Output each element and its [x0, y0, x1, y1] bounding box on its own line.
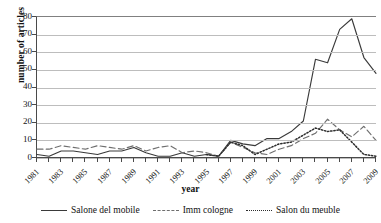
plot-area: [36, 16, 376, 158]
gridline: [37, 70, 376, 71]
legend-label: Salon du meuble: [276, 205, 340, 215]
y-tick-mark: [32, 139, 36, 140]
y-axis-tick-labels: 01020304050607080: [14, 10, 32, 158]
gridline: [37, 52, 376, 53]
gridline: [37, 105, 376, 106]
gridline: [37, 140, 376, 141]
y-tick-label: 60: [14, 47, 32, 56]
y-tick-label: 80: [14, 12, 32, 21]
y-tick-mark: [32, 157, 36, 158]
y-tick-label: 70: [14, 29, 32, 38]
legend-item[interactable]: Salone del mobile: [41, 205, 140, 215]
y-tick-mark: [32, 87, 36, 88]
y-tick-mark: [32, 16, 36, 17]
legend-item[interactable]: Imm cologne: [153, 205, 233, 215]
legend-label: Imm cologne: [183, 205, 233, 215]
legend-swatch-dashed-icon: [153, 207, 179, 214]
legend-swatch-dotted-icon: [246, 207, 272, 214]
legend-label: Salone del mobile: [71, 205, 140, 215]
gridline: [37, 35, 376, 36]
y-tick-label: 10: [14, 135, 32, 144]
y-tick-mark: [32, 69, 36, 70]
y-tick-label: 50: [14, 64, 32, 73]
legend-swatch-solid-icon: [41, 207, 67, 214]
x-axis-title: year: [0, 184, 381, 194]
y-tick-mark: [32, 34, 36, 35]
chart-figure: number of articles 01020304050607080 198…: [0, 0, 381, 223]
gridline: [37, 123, 376, 124]
plot-inner: [37, 17, 376, 158]
y-tick-label: 20: [14, 117, 32, 126]
y-tick-label: 30: [14, 100, 32, 109]
chart-legend: Salone del mobileImm cologneSalon du meu…: [0, 202, 381, 218]
y-tick-mark: [32, 104, 36, 105]
legend-item[interactable]: Salon du meuble: [246, 205, 340, 215]
y-tick-mark: [32, 51, 36, 52]
gridline: [37, 88, 376, 89]
y-tick-label: 40: [14, 82, 32, 91]
y-tick-mark: [32, 122, 36, 123]
